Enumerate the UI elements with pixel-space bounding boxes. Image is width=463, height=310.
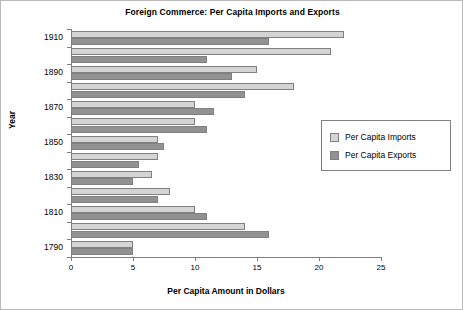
bar-imports [71,83,294,90]
x-axis-line [71,257,382,258]
y-tick-label: 1890 [23,67,63,77]
bar-exports [71,248,133,255]
bar-exports [71,126,207,133]
x-tick [381,257,382,261]
legend-swatch-imports-icon [330,133,339,142]
chart-frame: Foreign Commerce: Per Capita Imports and… [0,0,463,310]
legend-label-imports: Per Capita Imports [345,132,416,142]
x-tick-label: 15 [242,263,272,272]
x-tick-label: 5 [118,263,148,272]
y-tick-label: 1810 [23,207,63,217]
y-axis-label: Year [7,111,17,129]
legend-label-exports: Per Capita Exports [345,150,416,160]
y-tick-label: 1830 [23,172,63,182]
bar-imports [71,188,170,195]
bar-exports [71,56,207,63]
chart-title: Foreign Commerce: Per Capita Imports and… [1,7,463,17]
x-tick [71,257,72,261]
x-tick-label: 25 [366,263,396,272]
bar-imports [71,31,344,38]
bar-imports [71,241,133,248]
bar-exports [71,178,133,185]
bar-exports [71,161,139,168]
bar-exports [71,91,245,98]
bar-exports [71,196,158,203]
bar-imports [71,48,331,55]
legend-item-imports: Per Capita Imports [330,128,450,146]
bar-imports [71,223,245,230]
chart-legend: Per Capita Imports Per Capita Exports [321,120,451,171]
bar-imports [71,66,257,73]
bar-imports [71,118,195,125]
bar-exports [71,73,232,80]
y-tick-label: 1790 [23,242,63,252]
x-tick [195,257,196,261]
x-tick [257,257,258,261]
bar-exports [71,108,214,115]
y-tick-label: 1870 [23,102,63,112]
bar-imports [71,171,152,178]
y-tick-label: 1850 [23,137,63,147]
x-tick-label: 20 [304,263,334,272]
bar-imports [71,136,158,143]
bar-imports [71,206,195,213]
x-tick [319,257,320,261]
x-axis-label: Per Capita Amount in Dollars [71,286,381,296]
bar-exports [71,213,207,220]
x-tick-label: 0 [56,263,86,272]
y-tick [67,257,71,258]
legend-swatch-exports-icon [330,151,339,160]
bar-exports [71,38,269,45]
x-tick-label: 10 [180,263,210,272]
legend-item-exports: Per Capita Exports [330,146,450,164]
bar-imports [71,153,158,160]
bar-imports [71,101,195,108]
y-tick-label: 1910 [23,32,63,42]
x-tick [133,257,134,261]
bar-exports [71,231,269,238]
bar-exports [71,143,164,150]
